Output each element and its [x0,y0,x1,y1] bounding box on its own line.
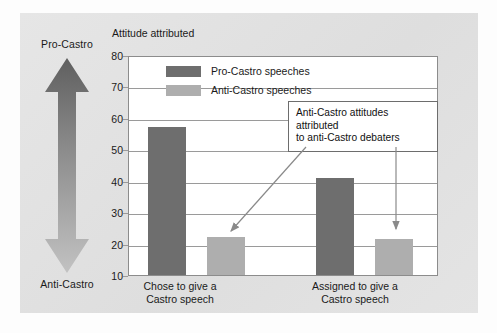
y-tick-30: 30 [83,207,123,219]
y-tick-80: 80 [83,50,123,62]
legend-label-anti-castro: Anti-Castro speeches [211,84,311,96]
y-tick-10: 10 [83,270,123,282]
legend-swatch-anti-castro [166,85,201,96]
bar-chose-pro-castro[interactable] [148,127,186,275]
x-category-chose: Chose to give a Castro speech [120,280,240,305]
annotation-callout-box: Anti-Castro attitudes attributed to anti… [288,101,438,152]
arrow-label-pro-castro: Pro-Castro [24,38,110,50]
legend-item-pro-castro[interactable]: Pro-Castro speeches [166,65,311,77]
y-axis-tick-labels: 80 70 60 50 40 30 20 10 [83,56,123,276]
y-tick-70: 70 [83,81,123,93]
legend-swatch-pro-castro [166,66,201,77]
y-tick-20: 20 [83,239,123,251]
y-tick-50: 50 [83,144,123,156]
legend-label-pro-castro: Pro-Castro speeches [211,65,310,77]
bar-assigned-pro-castro[interactable] [316,178,354,275]
x-category-assigned-line2: Castro speech [290,293,420,306]
chart-title: Attitude attributed [112,27,194,39]
bar-assigned-anti-castro[interactable] [375,239,413,275]
annotation-line-1: Anti-Castro attitudes attributed [296,107,430,132]
annotation-line-2: to anti-Castro debaters [296,132,430,145]
legend-item-anti-castro[interactable]: Anti-Castro speeches [166,84,311,96]
y-tick-40: 40 [83,176,123,188]
bar-chose-anti-castro[interactable] [207,237,245,275]
x-category-assigned-line1: Assigned to give a [290,280,420,293]
figure-canvas: Pro-Castro Anti-Castro Attitude attribut… [0,0,497,333]
x-category-assigned: Assigned to give a Castro speech [290,280,420,305]
x-category-chose-line1: Chose to give a [120,280,240,293]
x-category-chose-line2: Castro speech [120,293,240,306]
plot-area: Pro-Castro speeches Anti-Castro speeches [128,56,438,276]
y-tick-60: 60 [83,113,123,125]
legend: Pro-Castro speeches Anti-Castro speeches [166,65,311,103]
plot-frame: Pro-Castro speeches Anti-Castro speeches [128,56,438,276]
